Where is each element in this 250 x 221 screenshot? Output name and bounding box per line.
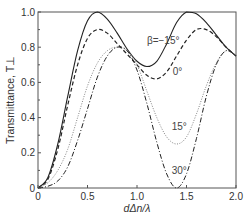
curve-label: 0° <box>173 66 183 77</box>
x-tick-label: 0 <box>35 191 41 202</box>
transmittance-chart: 00.51.01.52.000.20.40.60.81.0 β=−15°0°15… <box>0 0 250 221</box>
y-tick-label: 0.2 <box>21 147 35 158</box>
curve-0- <box>38 28 236 188</box>
curve-30- <box>38 47 236 188</box>
y-tick-label: 0.6 <box>21 77 35 88</box>
x-tick-label: 2.0 <box>229 191 243 202</box>
curve--15- <box>38 12 236 188</box>
x-axis-label: dΔn/λ <box>124 202 151 214</box>
axis-ticks: 00.51.01.52.000.20.40.60.81.0 <box>21 7 243 203</box>
plot-frame <box>38 12 236 188</box>
y-axis-label: Transmittance, T⊥ <box>4 56 16 144</box>
curves <box>38 12 236 188</box>
x-tick-label: 0.5 <box>81 191 95 202</box>
y-tick-label: 0.4 <box>21 112 35 123</box>
y-tick-label: 0 <box>29 183 35 194</box>
y-tick-label: 0.8 <box>21 42 35 53</box>
curve-annotations: β=−15°0°15°30° <box>147 35 187 176</box>
x-tick-label: 1.0 <box>130 191 144 202</box>
curve-15- <box>38 47 236 188</box>
curve-label: 15° <box>172 121 187 132</box>
curve-label: 30° <box>172 165 187 176</box>
y-tick-label: 1.0 <box>21 7 35 18</box>
axes-box <box>38 12 236 188</box>
curve-label: β=−15° <box>147 35 180 46</box>
x-tick-label: 1.5 <box>180 191 194 202</box>
